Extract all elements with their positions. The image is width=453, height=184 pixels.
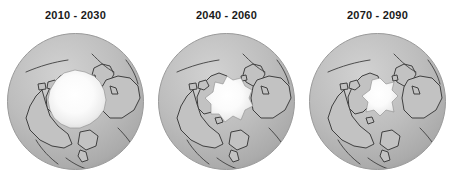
globe-3 <box>308 32 447 171</box>
globe-svg-3 <box>308 32 447 171</box>
arctic-sea-ice-figure: 2010 - 2030 <box>0 0 453 184</box>
arctic-islands-2 <box>189 83 197 90</box>
globe-1 <box>6 32 145 171</box>
map-panel-2: 2040 - 2060 <box>151 0 302 184</box>
globe-2 <box>157 32 296 171</box>
map-panel-1: 2010 - 2030 <box>0 0 151 184</box>
arctic-islands-2 <box>38 83 46 90</box>
panel-title-1: 2010 - 2030 <box>0 9 151 21</box>
map-panel-3: 2070 - 2090 <box>302 0 453 184</box>
svalbard <box>392 75 398 81</box>
globe-svg-1 <box>6 32 145 171</box>
globe-svg-2 <box>157 32 296 171</box>
panel-title-3: 2070 - 2090 <box>302 9 453 21</box>
arctic-islands-2 <box>340 83 348 90</box>
panel-title-2: 2040 - 2060 <box>151 9 302 21</box>
